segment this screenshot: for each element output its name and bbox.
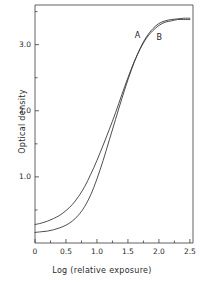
x-tick-label: 1.5 [113, 247, 143, 256]
x-tick-label: 0 [20, 247, 50, 256]
x-axis-ticks [35, 239, 190, 243]
data-curves [35, 18, 190, 232]
x-axis-title: Log (relative exposure) [0, 266, 204, 275]
curve-b [35, 18, 190, 232]
x-tick-label: 1.0 [82, 247, 112, 256]
y-axis-ticks [35, 12, 39, 210]
curve-label-b: B [157, 33, 163, 42]
curve-label-a: A [135, 31, 140, 40]
curve-a [35, 19, 190, 224]
x-tick-label: 2.5 [175, 247, 204, 256]
optical-density-chart: 00.51.01.52.02.5 1.02.03.0 AB Log (relat… [0, 0, 204, 285]
y-axis-title: Optical density [18, 62, 27, 182]
x-tick-label: 2.0 [144, 247, 174, 256]
y-tick-label: 3.0 [7, 40, 31, 49]
x-tick-label: 0.5 [51, 247, 81, 256]
